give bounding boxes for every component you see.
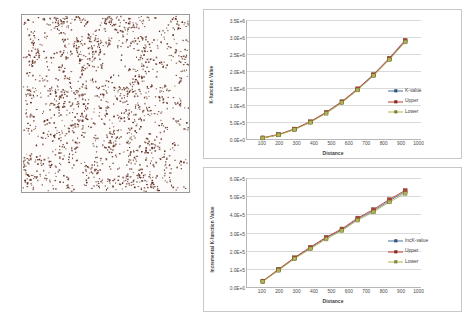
legend-swatch-icon xyxy=(388,88,403,94)
series-marker xyxy=(293,128,297,132)
x-tick-label: 600 xyxy=(340,290,357,295)
k-chart-y-axis-title-text: K-function Value xyxy=(210,65,215,103)
x-tick-label: 400 xyxy=(305,290,322,295)
series-marker xyxy=(403,40,407,44)
inck-chart-y-axis-title-text: Incremental K-function Value xyxy=(210,206,215,272)
k-chart-legend: K-valueUpperLower xyxy=(388,88,422,115)
inck-chart-y-axis-title: Incremental K-function Value xyxy=(206,168,218,311)
k-chart-y-axis-title: K-function Value xyxy=(206,10,218,158)
x-tick-label: 800 xyxy=(375,290,392,295)
incremental-k-function-chart: Incremental K-function Value 6.0E+55.0E+… xyxy=(203,167,462,312)
k-chart-series-svg xyxy=(247,20,421,139)
legend-label: K-value xyxy=(405,89,422,94)
series-marker xyxy=(340,229,344,233)
legend-item: Lower xyxy=(388,259,428,265)
series-marker xyxy=(387,200,391,204)
legend-item: Upper xyxy=(388,99,422,105)
inck-chart-x-tick-labels: 1002003004005006007008009001000 xyxy=(253,290,427,295)
series-marker xyxy=(261,136,265,140)
inck-chart-plot-area xyxy=(246,178,421,288)
legend-label: Upper xyxy=(405,249,418,254)
k-chart-x-tick-labels: 1002003004005006007008009001000 xyxy=(253,142,427,147)
k-chart-x-axis-title: Distance xyxy=(246,150,420,156)
series-marker xyxy=(308,121,312,125)
k-function-chart: K-function Value 3.5E+63.0E+62.5E+62.0E+… xyxy=(203,9,462,159)
series-marker xyxy=(293,257,297,261)
x-tick-label: 700 xyxy=(358,290,375,295)
legend-item: Upper xyxy=(388,249,428,255)
legend-swatch-icon xyxy=(388,109,403,115)
legend-item: IncK-value xyxy=(388,238,428,244)
legend-label: IncK-value xyxy=(405,239,428,244)
series-marker xyxy=(340,101,344,105)
x-tick-label: 100 xyxy=(253,290,270,295)
x-tick-label: 900 xyxy=(392,142,409,147)
series-marker xyxy=(261,280,265,284)
point-pattern-map xyxy=(21,14,190,193)
x-tick-label: 400 xyxy=(305,142,322,147)
x-tick-label: 500 xyxy=(323,290,340,295)
x-tick-label: 300 xyxy=(288,290,305,295)
legend-item: K-value xyxy=(388,88,422,94)
x-tick-label: 600 xyxy=(340,142,357,147)
series-marker xyxy=(387,58,391,62)
legend-label: Upper xyxy=(405,99,418,104)
x-tick-label: 500 xyxy=(323,142,340,147)
inck-chart-legend: IncK-valueUpperLower xyxy=(388,238,428,265)
series-marker xyxy=(356,218,360,222)
x-tick-label: 100 xyxy=(253,142,270,147)
legend-swatch-icon xyxy=(388,249,403,255)
x-tick-label: 200 xyxy=(271,142,288,147)
inck-chart-y-tick-labels: 6.0E+55.0E+54.0E+53.0E+52.0E+51.0E+50.0E… xyxy=(219,178,245,287)
x-tick-label: 700 xyxy=(358,142,375,147)
series-marker xyxy=(277,133,281,137)
series-line xyxy=(263,41,405,138)
series-line xyxy=(263,42,405,138)
inck-chart-x-axis-title: Distance xyxy=(246,298,420,304)
legend-label: Lower xyxy=(405,260,418,265)
legend-item: Lower xyxy=(388,109,422,115)
series-marker xyxy=(372,210,376,214)
x-tick-label: 1000 xyxy=(410,142,427,147)
series-marker xyxy=(403,192,407,196)
x-tick-label: 900 xyxy=(392,290,409,295)
series-marker xyxy=(324,111,328,115)
series-marker xyxy=(372,74,376,78)
series-line xyxy=(263,40,405,138)
point-pattern-canvas xyxy=(22,15,189,192)
x-tick-label: 1000 xyxy=(410,290,427,295)
k-chart-plot-area xyxy=(246,20,421,140)
series-marker xyxy=(308,247,312,251)
k-chart-y-tick-labels: 3.5E+63.0E+62.5E+62.0E+61.5E+61.0E+65.0E… xyxy=(219,20,245,139)
series-marker xyxy=(324,237,328,241)
series-marker xyxy=(277,268,281,272)
series-line xyxy=(263,193,405,281)
x-tick-label: 800 xyxy=(375,142,392,147)
legend-swatch-icon xyxy=(388,259,403,265)
legend-label: Lower xyxy=(405,110,418,115)
x-tick-label: 200 xyxy=(271,290,288,295)
legend-swatch-icon xyxy=(388,238,403,244)
legend-swatch-icon xyxy=(388,99,403,105)
inck-chart-series-svg xyxy=(247,178,421,287)
series-marker xyxy=(356,88,360,92)
x-tick-label: 300 xyxy=(288,142,305,147)
